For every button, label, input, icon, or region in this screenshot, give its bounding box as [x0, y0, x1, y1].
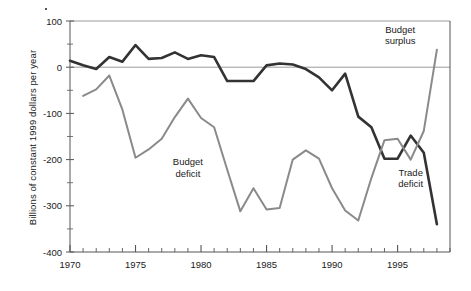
y-tick-label: -400 [43, 247, 62, 258]
annotation-label: deficit [398, 178, 423, 189]
y-tick-label: 0 [57, 62, 62, 73]
x-tick-label: 1970 [59, 259, 80, 270]
y-tick-label: -300 [43, 200, 62, 211]
annotation-label: surplus [385, 35, 416, 46]
y-tick-label: 100 [46, 16, 62, 27]
series-line-trade-deficit [70, 45, 437, 224]
x-tick-label: 1980 [190, 259, 211, 270]
series-line-budget-deficit-surplus [83, 50, 437, 221]
annotation-label: Trade [398, 167, 422, 178]
annotation-label: Budget [173, 156, 203, 167]
y-tick-label: -100 [43, 108, 62, 119]
chart-figure: Billions of constant 1999 dollars per ye… [0, 0, 471, 291]
x-tick-label: 1990 [321, 259, 342, 270]
x-tick-label: 1985 [256, 259, 277, 270]
y-tick-label: -200 [43, 154, 62, 165]
annotation-label: Budget [385, 24, 415, 35]
annotation-label: deficit [176, 168, 201, 179]
x-tick-label: 1975 [125, 259, 146, 270]
x-tick-label: 1995 [387, 259, 408, 270]
chart-plot-area: 1000-100-200-300-40019701975198019851990… [0, 0, 471, 291]
